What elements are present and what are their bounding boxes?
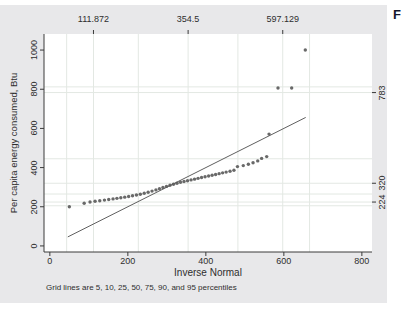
scatter-point [68,205,71,208]
scatter-point [182,180,185,183]
scatter-point [186,179,189,182]
scatter-point [267,132,270,135]
scatter-point [224,170,227,173]
scatter-point [221,171,224,174]
scatter-point [290,86,293,89]
scatter-point [123,195,126,198]
scatter-point [207,174,210,177]
scatter-point [214,173,217,176]
scatter-point [139,193,142,196]
scatter-point [203,175,206,178]
scatter-point [111,197,114,200]
scatter-point [146,191,149,194]
scatter-point [217,172,220,175]
scatter-point [228,170,231,173]
scatter-point [143,192,146,195]
corner-text-fragment: F [393,7,401,22]
gridline-note: Grid lines are 5, 10, 25, 50, 75, 90, an… [46,283,237,292]
scatter-point [165,185,168,188]
scatter-point [131,194,134,197]
scatter-point [119,196,122,199]
scatter-point [172,183,175,186]
y-axis-title: Per capita energy consumed, Btu [8,73,19,213]
scatter-point [127,195,130,198]
scatter-point [196,177,199,180]
scatter-point [242,164,245,167]
scatter-point [168,184,171,187]
scatter-point [276,86,279,89]
x-axis-title: Inverse Normal [174,267,242,278]
scatter-point [265,155,268,158]
scatter-point [93,200,96,203]
scatter-point [150,189,153,192]
scatter-point [98,199,101,202]
scatter-point [193,177,196,180]
scatter-point [210,174,213,177]
scatter-point [200,176,203,179]
scatter-point [88,200,91,203]
scatter-point [236,165,239,168]
scatter-point [103,198,106,201]
scatter-point [115,197,118,200]
scatter-point [154,188,157,191]
scatter-point [256,159,259,162]
scatter-point [247,163,250,166]
scatter-point [179,181,182,184]
scatter-point [189,178,192,181]
scatter-point [304,48,307,51]
scatter-point [161,186,164,189]
scatter-point [260,157,263,160]
scatter-point [251,161,254,164]
scatter-point [232,169,235,172]
scatter-point [107,198,110,201]
scatter-point [135,193,138,196]
scatter-point [158,187,161,190]
scatter-point [82,202,85,205]
scatter-point [175,182,178,185]
